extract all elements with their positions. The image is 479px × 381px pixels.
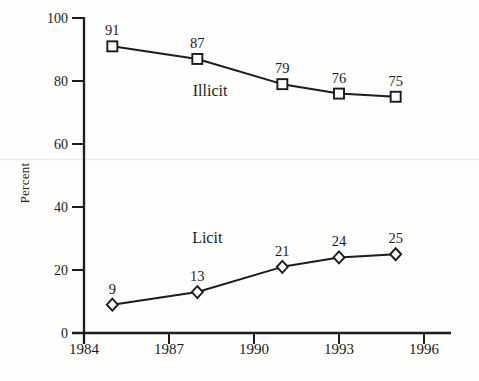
y-ticks: 020406080100	[47, 11, 85, 341]
point-label: 9	[109, 281, 116, 297]
marker-diamond	[192, 286, 203, 298]
x-tick-label: 1993	[324, 341, 354, 357]
axes	[72, 17, 451, 344]
marker-square	[192, 54, 202, 64]
point-label: 25	[388, 230, 403, 246]
marker-square	[277, 79, 287, 89]
marker-diamond	[277, 261, 288, 273]
point-label: 87	[190, 35, 205, 51]
marker-diamond	[107, 299, 118, 311]
y-tick-label: 0	[61, 326, 68, 341]
x-tick-label: 1990	[239, 341, 269, 357]
point-label: 24	[332, 233, 347, 249]
point-label: 75	[388, 73, 403, 89]
marker-square	[391, 92, 401, 102]
y-tick-label: 40	[54, 200, 68, 215]
marker-square	[334, 89, 344, 99]
x-tick-label: 1996	[409, 341, 440, 357]
point-label: 91	[105, 22, 120, 38]
point-label: 13	[190, 268, 205, 284]
x-tick-label: 1987	[154, 341, 185, 357]
x-ticks: 19841987199019931996	[69, 332, 440, 357]
y-tick-label: 100	[47, 11, 68, 26]
series-licit: 913212425Licit	[107, 229, 403, 311]
marker-diamond	[334, 251, 345, 263]
y-axis-title: Percent	[17, 162, 32, 203]
chart-figure: 02040608010019841987199019931996Percent9…	[0, 0, 479, 381]
point-label: 21	[275, 243, 290, 259]
series-line	[112, 254, 395, 304]
series-label-licit: Licit	[192, 229, 223, 246]
line-chart: 02040608010019841987199019931996Percent9…	[0, 0, 479, 381]
point-label: 79	[275, 60, 290, 76]
point-label: 76	[332, 70, 347, 86]
y-tick-label: 80	[54, 74, 68, 89]
y-tick-label: 60	[54, 137, 68, 152]
series-line	[112, 46, 395, 96]
y-tick-label: 20	[54, 263, 68, 278]
x-tick-label: 1984	[69, 341, 100, 357]
marker-diamond	[390, 248, 401, 260]
series-label-illicit: Illicit	[193, 82, 228, 99]
series-illicit: 9187797675Illicit	[105, 22, 403, 101]
marker-square	[107, 41, 117, 51]
